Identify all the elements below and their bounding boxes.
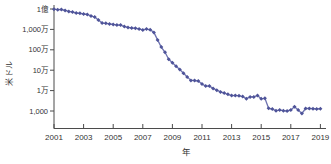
x-tick-label: 2017: [282, 133, 300, 142]
y-tick-label: 10万: [33, 66, 49, 75]
x-tick-label: 2013: [223, 133, 241, 142]
x-tick-label: 2015: [252, 133, 270, 142]
x-tick-label: 2019: [312, 133, 330, 142]
y-axis-title: 米ドル: [3, 60, 14, 86]
x-tick-label: 2003: [75, 133, 93, 142]
y-tick-label: 1,000万: [22, 25, 49, 34]
x-tick-label: 2009: [164, 133, 182, 142]
data-point-markers: [52, 7, 322, 115]
x-axis-title: 年: [182, 145, 191, 157]
cost-per-year-log-chart: 1億1,000万100万10万1万1,000200120032005200720…: [0, 0, 331, 164]
x-tick-label: 2011: [193, 133, 211, 142]
x-tick-label: 2005: [104, 133, 122, 142]
y-tick-label: 1万: [37, 86, 49, 95]
y-tick-label: 100万: [28, 45, 49, 54]
line-chart-canvas: 1億1,000万100万10万1万1,000200120032005200720…: [0, 0, 331, 164]
x-tick-label: 2007: [134, 133, 152, 142]
axes: [54, 5, 326, 129]
x-tick-label: 2001: [45, 133, 63, 142]
y-tick-label: 1,000: [29, 107, 48, 116]
data-line: [54, 9, 320, 113]
y-tick-label: 1億: [37, 4, 49, 14]
